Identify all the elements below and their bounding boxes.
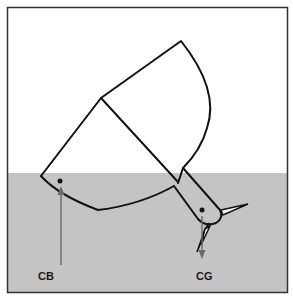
diagram-canvas: CB CG [0,0,293,299]
cb-label: CB [38,270,54,282]
cb-dot [58,179,63,184]
cg-label: CG [196,270,213,282]
cg-dot [200,208,205,213]
diagram-svg [0,0,293,299]
